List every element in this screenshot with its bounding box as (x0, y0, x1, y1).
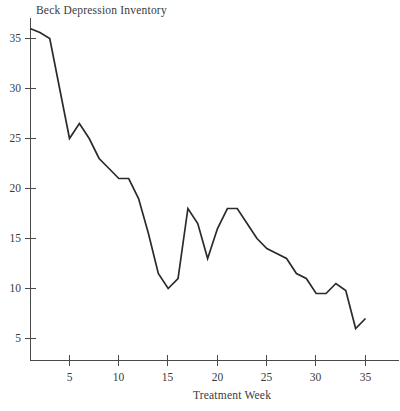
chart-title: Beck Depression Inventory (36, 4, 167, 17)
x-tick-label-15: 15 (162, 371, 174, 383)
x-axis-tick-labels: 5 10 15 20 25 30 35 (67, 371, 372, 383)
x-tick-label-35: 35 (360, 371, 372, 383)
bdi-series-line (30, 29, 365, 329)
y-tick-label-5: 5 (15, 332, 21, 344)
y-tick-label-35: 35 (10, 32, 22, 44)
x-tick-label-25: 25 (261, 371, 273, 383)
x-axis-title: Treatment Week (193, 389, 271, 401)
y-tick-label-25: 25 (10, 132, 22, 144)
x-tick-label-10: 10 (113, 371, 125, 383)
y-tick-label-20: 20 (10, 182, 22, 194)
x-tick-label-20: 20 (212, 371, 224, 383)
line-chart: Beck Depression Inventory 5 10 15 20 25 … (0, 0, 400, 411)
y-tick-label-10: 10 (10, 282, 22, 294)
x-tick-label-30: 30 (310, 371, 322, 383)
y-axis-tick-labels: 5 10 15 20 25 30 35 (10, 32, 22, 344)
x-tick-label-5: 5 (67, 371, 73, 383)
y-tick-label-15: 15 (10, 232, 22, 244)
y-tick-label-30: 30 (10, 82, 22, 94)
chart-container: Beck Depression Inventory 5 10 15 20 25 … (0, 0, 400, 411)
